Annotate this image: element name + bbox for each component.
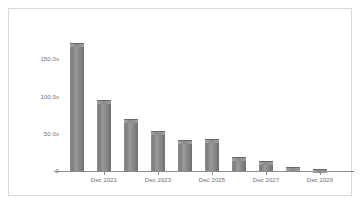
x-axis-tick-mark-dec-2023 <box>158 171 159 175</box>
x-axis-tick-mark-dec-2021 <box>104 171 105 175</box>
bar-dec-2020[interactable] <box>70 43 84 171</box>
bar-cap <box>97 101 111 104</box>
x-axis-label-dec-2027: Dec 2027 <box>253 177 280 183</box>
bar-dec-2027[interactable] <box>259 161 273 171</box>
bars-layer <box>9 9 353 197</box>
x-axis-label-dec-2023: Dec 2023 <box>145 177 172 183</box>
x-axis-tick-mark-dec-2029 <box>320 171 321 175</box>
x-axis-label-dec-2029: Dec 2029 <box>307 177 334 183</box>
bar-cap <box>124 120 138 123</box>
x-axis-tick-mark-dec-2025 <box>212 171 213 175</box>
bar-cap <box>232 158 246 161</box>
bar-dec-2026[interactable] <box>232 157 246 171</box>
bar-dec-2025[interactable] <box>205 139 219 171</box>
bar-dec-2021[interactable] <box>97 100 111 171</box>
bar-dec-2022[interactable] <box>124 119 138 171</box>
x-axis-tick-mark-dec-2027 <box>266 171 267 175</box>
bar-cap <box>151 132 165 135</box>
bar-cap <box>205 140 219 143</box>
bar-cap <box>178 141 192 144</box>
bar-cap <box>70 44 84 47</box>
chart-frame: 150.0x 100.0x 50.0x 0 Dec 2021 Dec 2023 … <box>8 8 352 196</box>
bar-cap <box>286 168 300 171</box>
bar-dec-2024[interactable] <box>178 140 192 171</box>
bar-cap <box>259 162 273 165</box>
bar-dec-2028[interactable] <box>286 167 300 171</box>
bar-dec-2023[interactable] <box>151 131 165 171</box>
x-axis-label-dec-2021: Dec 2021 <box>91 177 118 183</box>
x-axis-label-dec-2025: Dec 2025 <box>199 177 226 183</box>
